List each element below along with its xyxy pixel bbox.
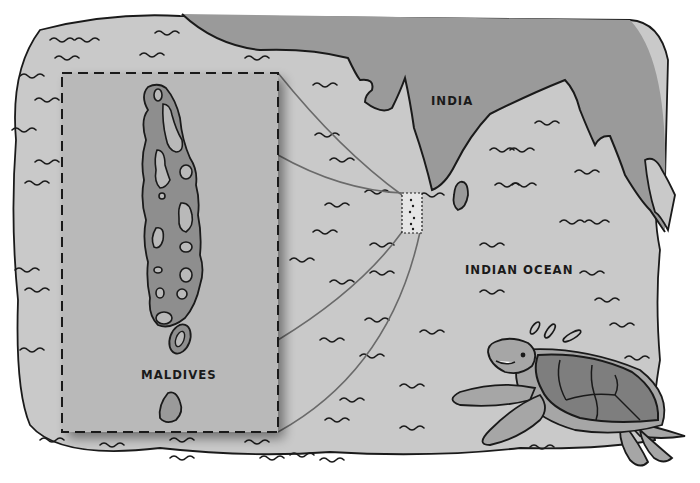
label-indian-ocean: INDIAN OCEAN <box>465 262 573 277</box>
illustrated-map: INDIA INDIAN OCEAN MALDIVES <box>0 0 700 483</box>
label-india: INDIA <box>431 93 473 108</box>
label-maldives: MALDIVES <box>141 367 217 382</box>
map-canvas <box>0 0 700 483</box>
maldives-location-marker[interactable] <box>402 193 422 233</box>
